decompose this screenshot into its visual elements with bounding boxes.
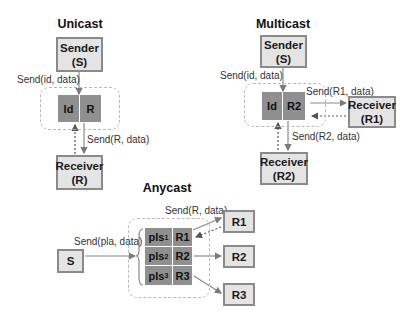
anycast-pls2-cell: pls2	[145, 247, 172, 265]
multicast-send-in-label: Send(id, data)	[220, 70, 283, 81]
sender-label: Sender	[60, 41, 99, 55]
receiver-id: (R2)	[273, 169, 295, 183]
anycast-r2-cell: R2	[173, 247, 192, 265]
multicast-r2-cell: R2	[283, 92, 305, 120]
sender-id: (S)	[72, 55, 87, 69]
multicast-sender-box: Sender (S)	[260, 35, 307, 68]
pls-subscript: 2	[165, 253, 169, 260]
anycast-pls1-cell: pls1	[145, 228, 172, 246]
receiver-label: R2	[232, 250, 247, 264]
sender-label: Sender	[264, 38, 303, 52]
multicast-receiver-r2-box: Receiver (R2)	[260, 152, 308, 185]
receiver-label: R1	[232, 215, 247, 229]
unicast-receiver-box: Receiver (R)	[56, 155, 103, 190]
unicast-sender-box: Sender (S)	[56, 37, 103, 72]
anycast-title: Anycast	[143, 181, 192, 195]
multicast-title: Multicast	[256, 17, 310, 31]
multicast-id-cell: Id	[262, 92, 282, 120]
unicast-send-out-label: Send(R, data)	[87, 134, 149, 145]
unicast-send-in-label: Send(id, data)	[17, 74, 80, 85]
anycast-r1-cell: R1	[173, 228, 192, 246]
anycast-receiver-r1-box: R1	[223, 210, 255, 233]
anycast-send-out-label: Send(R, data)	[165, 205, 227, 216]
unicast-id-cell: Id	[58, 95, 79, 122]
pls-label: pls	[149, 270, 165, 282]
sender-label: S	[67, 254, 75, 268]
pls-subscript: 3	[165, 272, 169, 279]
receiver-id: (R)	[72, 173, 88, 187]
receiver-label: Receiver	[348, 98, 396, 112]
receiver-label: R3	[232, 288, 247, 302]
pls-label: pls	[149, 231, 165, 243]
pls-subscript: 1	[165, 234, 169, 241]
multicast-receiver-r1-box: Receiver (R1)	[348, 96, 396, 128]
unicast-r-cell: R	[80, 95, 101, 122]
unicast-title: Unicast	[57, 17, 102, 31]
receiver-label: Receiver	[260, 155, 308, 169]
anycast-r3-cell: R3	[173, 266, 192, 285]
receiver-label: Receiver	[56, 159, 104, 173]
anycast-sender-box: S	[57, 249, 84, 273]
anycast-receiver-r3-box: R3	[223, 283, 255, 306]
anycast-pls3-cell: pls3	[145, 266, 172, 285]
pls-label: pls	[149, 250, 165, 262]
anycast-receiver-r2-box: R2	[223, 245, 255, 268]
sender-id: (S)	[276, 52, 291, 66]
receiver-id: (R1)	[361, 112, 383, 126]
multicast-send-r2-label: Send(R2, data)	[292, 131, 360, 142]
